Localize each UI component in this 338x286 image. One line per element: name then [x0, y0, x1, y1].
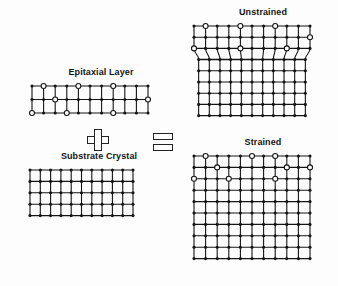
- panel-unstrained: Unstrained: [190, 8, 336, 128]
- epitaxy-strain-diagram: Epitaxial Layer Substrate Crystal Unstra…: [0, 0, 338, 286]
- equals-operator-icon: [153, 132, 173, 152]
- plus-operator-icon: [87, 129, 109, 151]
- panel-strained: Strained: [190, 138, 336, 280]
- epitaxial-layer-lattice: [28, 68, 174, 126]
- plus-center-fill: [95, 137, 100, 142]
- panel-epitaxial-layer: Epitaxial Layer: [28, 68, 174, 126]
- unstrained-lattice: [190, 8, 336, 128]
- substrate-crystal-lattice: [26, 152, 172, 224]
- equals-bar-bottom: [153, 144, 173, 151]
- equals-bar-top: [153, 133, 173, 140]
- strained-lattice: [190, 138, 336, 280]
- panel-substrate-crystal: Substrate Crystal: [26, 152, 172, 224]
